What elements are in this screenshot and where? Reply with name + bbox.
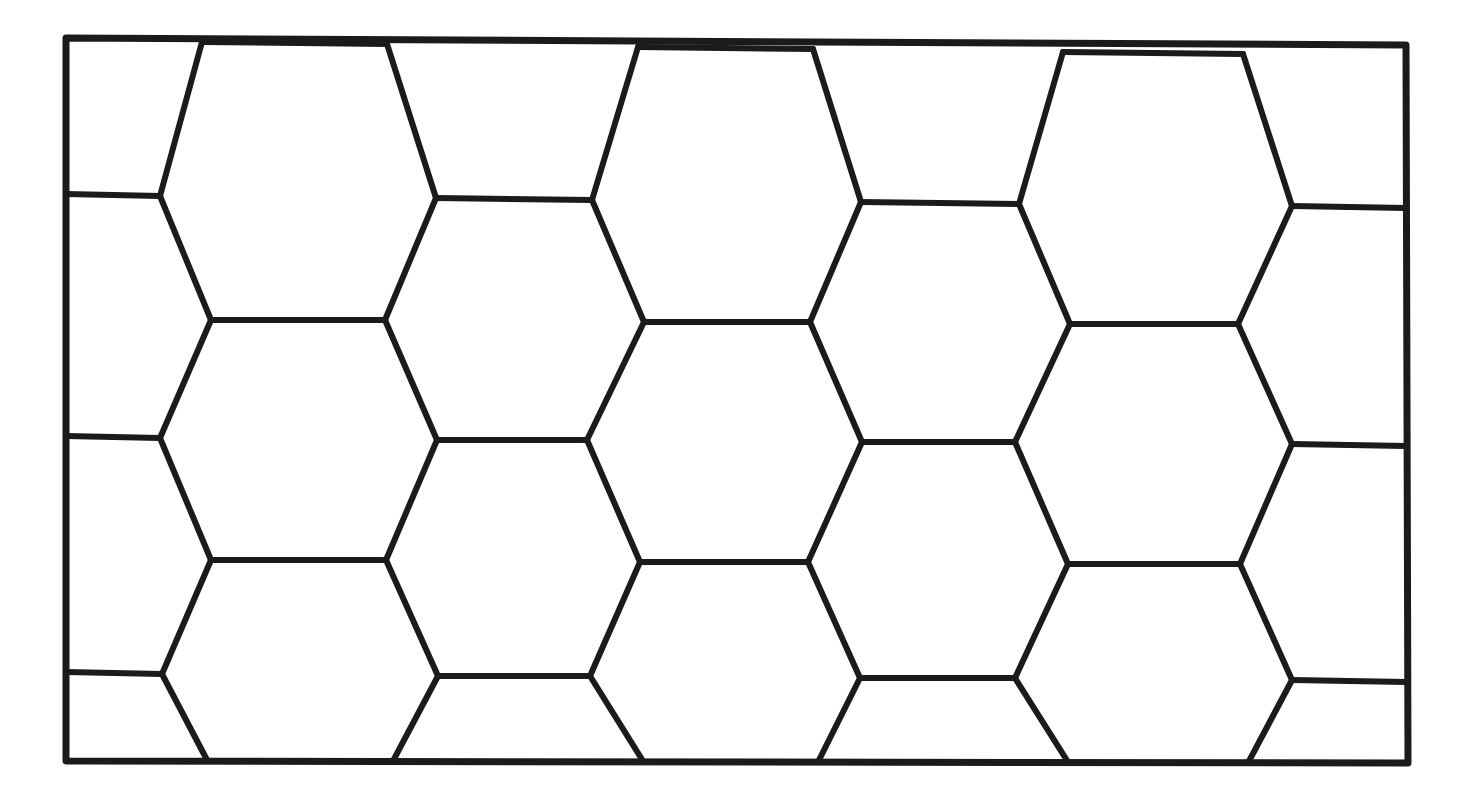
hexagon-tessellation-figure: [0, 0, 1463, 797]
honeycomb-lattice: [60, 32, 1416, 770]
tessellation-drawing: [0, 0, 1463, 797]
hexagon-faces: [60, 32, 1416, 770]
